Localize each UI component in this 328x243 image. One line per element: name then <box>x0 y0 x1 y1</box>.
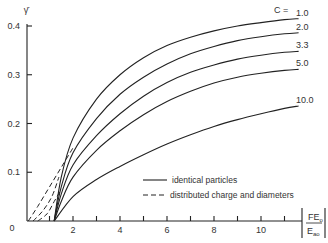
curve-label: 2.0 <box>296 22 309 32</box>
x-label-numerator: FEo <box>308 212 324 223</box>
x-tick-label: 6 <box>164 225 169 235</box>
series-distributed-1 <box>28 148 73 221</box>
legend-label-identical: identical particles <box>172 175 237 185</box>
y-ticks: 0.10.20.30.4 <box>7 21 32 177</box>
y-tick-label: 0.2 <box>7 119 20 129</box>
y-tick-label: 0.4 <box>7 21 20 31</box>
x-label-denominator: Eao <box>307 226 320 237</box>
curve-labels: 1.02.03.35.010.0 <box>296 8 314 105</box>
x-axis-label: FEo Eao <box>302 208 325 238</box>
x-tick-label: 8 <box>211 225 216 235</box>
legend: identical particles distributed charge a… <box>143 175 294 200</box>
x-tick-label: 4 <box>117 225 122 235</box>
curve-label: 1.0 <box>296 8 309 18</box>
chart-canvas: 0.10.20.30.4 246810 1.02.03.35.010.0 γ̄ … <box>0 0 328 243</box>
x-ticks: 246810 <box>50 216 285 235</box>
curve-label: 10.0 <box>296 95 314 105</box>
y-tick-label: 0.1 <box>7 167 20 177</box>
c-prefix-label: C = <box>274 5 288 15</box>
legend-label-distributed: distributed charge and diameters <box>170 190 294 200</box>
series-10.0 <box>54 106 298 221</box>
x-tick-label: 2 <box>70 225 75 235</box>
x-origin-label: 0 <box>9 223 14 233</box>
x-tick-label: 10 <box>256 225 266 235</box>
curve-label: 5.0 <box>296 58 309 68</box>
y-tick-label: 0.3 <box>7 70 20 80</box>
y-axis-label: γ̄ <box>24 5 31 15</box>
curve-label: 3.3 <box>296 40 309 50</box>
